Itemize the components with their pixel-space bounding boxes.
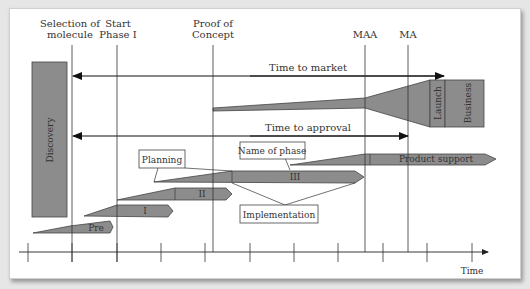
- phase-3-label: III: [290, 172, 301, 182]
- business-label: Business: [463, 82, 473, 123]
- time-axis-label: Time: [461, 266, 484, 276]
- time-to-market-label: Time to market: [269, 62, 347, 73]
- implementation-callout-label: Implementation: [243, 210, 316, 220]
- name-of-phase-callout-label: Name of phase: [238, 146, 306, 156]
- phase-2-bar: [117, 188, 232, 200]
- milestone-start-phase-label-1: Start: [105, 18, 131, 29]
- planning-pointer-b: [185, 168, 232, 171]
- launch-label: Launch: [433, 86, 443, 120]
- milestone-maa-label: MAA: [353, 29, 378, 40]
- implementation-pointer-a: [232, 183, 285, 205]
- phase-1-label: I: [143, 206, 147, 216]
- planning-pointer-a: [154, 168, 158, 182]
- milestone-poc-label-2: Concept: [192, 29, 234, 40]
- time-axis-ticks: [28, 243, 472, 262]
- discovery-label: Discovery: [45, 117, 55, 163]
- implementation-pointer-b: [285, 183, 355, 205]
- milestone-start-phase-label-2: Phase I: [99, 29, 136, 40]
- phase-pre-label: Pre: [88, 223, 104, 233]
- phase-1-bar: [84, 205, 173, 217]
- phase-3-bar: [154, 171, 364, 183]
- phase-2-label: II: [198, 189, 206, 199]
- time-to-approval-label: Time to approval: [265, 122, 351, 133]
- launch-funnel: [213, 80, 430, 127]
- product-support-label: Product support: [399, 154, 474, 164]
- planning-callout-label: Planning: [142, 155, 183, 165]
- milestone-ma-label: MA: [399, 29, 417, 40]
- drug-development-diagram: Selection of molecule Start Phase I Proo…: [0, 0, 530, 289]
- milestone-poc-label-1: Proof of: [193, 18, 234, 29]
- milestone-selection-label-2: molecule: [47, 29, 93, 40]
- milestone-selection-label-1: Selection of: [40, 18, 101, 29]
- name-of-phase-pointer: [285, 158, 290, 170]
